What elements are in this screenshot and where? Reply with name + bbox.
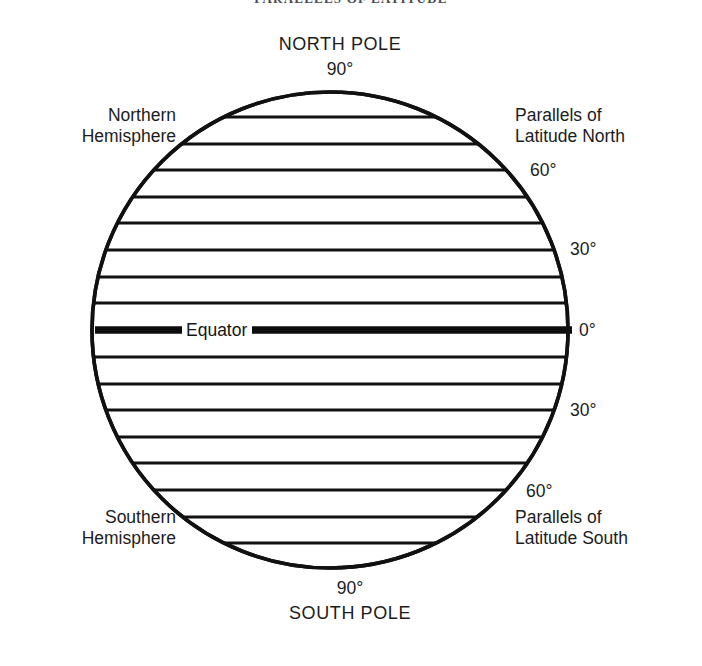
degree-label-60-south: 60° [526,481,552,502]
globe-graphic [0,0,702,666]
degree-label-60-north: 60° [530,160,556,181]
latitude-diagram: PARALLELS OF LATITUDE [0,0,702,666]
south-pole-degrees-label: 90° [337,578,363,599]
equator-label: Equator [182,321,252,340]
parallels-north-label-line2: Latitude North [515,126,625,147]
southern-hemisphere-label-line1: Southern [0,507,176,528]
parallels-south-label-line2: Latitude South [515,528,628,549]
degree-label-30-north: 30° [570,239,596,260]
southern-hemisphere-label-line2: Hemisphere [0,528,176,549]
northern-hemisphere-label-line2: Hemisphere [0,126,176,147]
parallels-south-label-line1: Parallels of [515,507,602,528]
degree-label-30-south: 30° [570,400,596,421]
northern-hemisphere-label-line1: Northern [0,105,176,126]
south-pole-label: SOUTH POLE [289,603,411,624]
degree-label-0: 0° [579,320,596,341]
north-pole-label: NORTH POLE [279,34,402,55]
north-pole-degrees-label: 90° [327,59,353,80]
parallels-north-label-line1: Parallels of [515,105,602,126]
